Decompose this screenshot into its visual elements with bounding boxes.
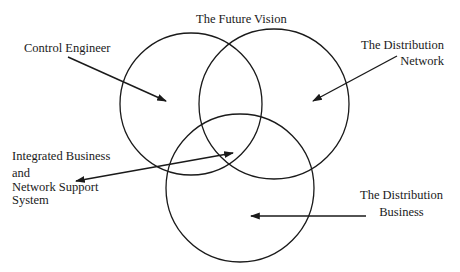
circle-distribution-business [166, 114, 314, 262]
label-line: and [12, 166, 110, 181]
label-control-engineer: Control Engineer [24, 40, 110, 56]
label-line: The Distribution [361, 37, 444, 53]
label-line: System [12, 194, 110, 206]
label-line: Network [361, 53, 444, 69]
circle-distribution-network [199, 29, 349, 179]
label-line: The Distribution [360, 187, 443, 204]
label-distribution-business: The Distribution Business [360, 187, 443, 221]
label-distribution-network: The Distribution Network [361, 37, 444, 69]
venn-diagram: The Future Vision Control Engineer The D… [0, 0, 460, 272]
circle-control-engineer [120, 33, 262, 175]
label-integrated-support-system: Integrated Business and Network Support … [12, 149, 110, 206]
label-line: Integrated Business [12, 149, 110, 164]
label-future-vision: The Future Vision [196, 11, 287, 27]
label-line: Business [360, 204, 443, 221]
arrow-control-engineer [68, 57, 166, 101]
